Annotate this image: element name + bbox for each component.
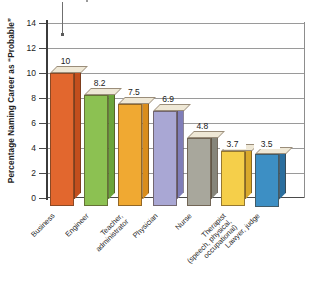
category-label: Physician <box>131 212 159 240</box>
y-axis-tick-label: 8 <box>16 93 36 103</box>
category-label: Teacher, administrator <box>89 212 131 254</box>
category-label: Engineer <box>64 212 91 239</box>
plot-right-edge <box>304 22 305 198</box>
bar <box>50 73 74 207</box>
bar-front-face <box>118 104 142 206</box>
bar-front-face <box>50 73 74 207</box>
bar-value-label: 7.5 <box>117 87 151 97</box>
y-axis-tick-label: 12 <box>16 43 36 53</box>
bar <box>118 104 142 206</box>
bar-front-face <box>255 154 279 207</box>
gridline <box>47 23 305 24</box>
bar <box>221 151 245 206</box>
bar-side-face <box>142 97 149 199</box>
bar-side-face <box>177 104 184 199</box>
bar <box>187 138 211 207</box>
bar <box>84 95 108 206</box>
bar <box>255 154 279 207</box>
scan-artifact-line <box>62 2 63 35</box>
bar-side-face <box>245 144 252 199</box>
gridline <box>47 73 305 74</box>
bar-value-label: 4.8 <box>185 121 219 131</box>
bar-value-label: 8.2 <box>83 78 117 88</box>
bar-value-label: 10 <box>49 56 83 66</box>
bar-front-face <box>153 111 177 206</box>
y-axis-tick-label: 14 <box>16 18 36 28</box>
y-axis-tick-label: 10 <box>16 68 36 78</box>
y-axis-line <box>46 20 48 200</box>
y-axis-tick-label: 6 <box>16 118 36 128</box>
bar-chart: Percentage Naming Career as “Probable” 0… <box>0 0 312 284</box>
y-axis-tick-label: 0 <box>16 193 36 203</box>
bar-side-face <box>279 147 286 200</box>
bar-front-face <box>221 151 245 206</box>
bar-side-face <box>211 131 218 200</box>
category-label: Nurse <box>174 212 194 232</box>
bar-side-face <box>108 88 115 199</box>
bar-value-label: 6.9 <box>151 94 185 104</box>
y-axis-title: Percentage Naming Career as “Probable” <box>7 6 16 196</box>
bar <box>153 111 177 206</box>
y-axis-tick-label: 4 <box>16 143 36 153</box>
scan-artifact-dot <box>61 33 64 36</box>
scan-artifact-speck <box>86 0 88 2</box>
bar-top-face <box>187 131 225 138</box>
category-label: Business <box>30 212 57 239</box>
bar-front-face <box>187 138 211 207</box>
bar-value-label: 3.5 <box>254 139 280 149</box>
bar-side-face <box>74 66 81 200</box>
gridline <box>47 48 305 49</box>
bar-front-face <box>84 95 108 206</box>
y-axis-tick-label: 2 <box>16 168 36 178</box>
bar-value-label: 3.7 <box>220 139 246 149</box>
